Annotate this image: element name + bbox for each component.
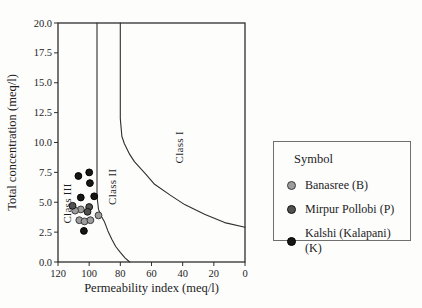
data-point <box>91 193 98 200</box>
doneen-diagram-figure: 1201008060402000.02.55.07.510.012.515.01… <box>0 0 422 308</box>
x-tick-label: 20 <box>209 268 220 279</box>
legend-item-label: Mirpur Pollobi (P) <box>305 202 394 217</box>
mirpur-pollobi-marker-icon <box>287 205 296 214</box>
y-tick-label: 20.0 <box>34 18 52 29</box>
data-point <box>84 208 91 215</box>
x-tick-label: 40 <box>177 268 188 279</box>
data-point <box>77 194 84 201</box>
y-tick-label: 7.5 <box>39 167 52 178</box>
x-tick-label: 60 <box>146 268 157 279</box>
legend-item-kalshi-kalapani: Kalshi (Kalapani) (K) <box>287 226 410 256</box>
y-tick-label: 0.0 <box>39 257 52 268</box>
x-tick-label: 80 <box>115 268 126 279</box>
kalshi-kalapani-marker-icon <box>287 237 296 246</box>
legend-item-banasree: Banasree (B) <box>287 178 410 193</box>
class-region-label: Class I <box>173 131 185 163</box>
legend-item-label: Kalshi (Kalapani) (K) <box>305 226 410 256</box>
permeability-index-chart: 1201008060402000.02.55.07.510.012.515.01… <box>0 0 270 308</box>
data-point <box>69 202 76 209</box>
y-tick-label: 10.0 <box>34 137 52 148</box>
x-tick-label: 120 <box>50 268 66 279</box>
class2-class3-boundary <box>97 23 130 262</box>
legend-item-label: Banasree (B) <box>305 178 368 193</box>
data-point <box>75 173 82 180</box>
banasree-marker-icon <box>287 181 296 190</box>
y-axis-title: Total concentration (meq/l) <box>5 74 19 211</box>
legend-item-mirpur-pollobi: Mirpur Pollobi (P) <box>287 202 410 217</box>
y-tick-label: 2.5 <box>39 227 52 238</box>
y-tick-label: 15.0 <box>34 77 52 88</box>
y-tick-label: 12.5 <box>34 107 52 118</box>
plot-border <box>58 23 245 262</box>
x-tick-label: 0 <box>242 268 247 279</box>
data-point <box>95 212 102 219</box>
legend-title: Symbol <box>294 152 410 167</box>
class-region-label: Class II <box>106 169 118 205</box>
y-tick-label: 5.0 <box>39 197 52 208</box>
data-point <box>87 217 94 224</box>
x-axis-title: Permeability index (meq/l) <box>84 281 219 295</box>
class1-class2-boundary <box>120 23 245 227</box>
y-tick-label: 17.5 <box>34 47 52 58</box>
data-point <box>81 228 88 235</box>
legend-items: Banasree (B) Mirpur Pollobi (P) Kalshi (… <box>274 178 410 256</box>
data-point <box>86 169 93 176</box>
data-point <box>87 180 94 187</box>
legend-box: Symbol Banasree (B) Mirpur Pollobi (P) K… <box>273 141 411 241</box>
x-tick-label: 100 <box>81 268 97 279</box>
